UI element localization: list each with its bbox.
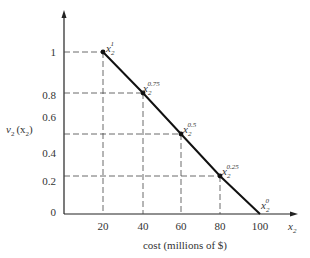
x-tick-label: 100 [252, 220, 269, 232]
y-axis-label: v2(x2) [6, 123, 33, 138]
point-label: x20.5 [182, 121, 197, 138]
data-point [101, 50, 106, 55]
x-tick-label: 60 [176, 220, 188, 232]
x-tick-label: 80 [215, 220, 227, 232]
y-tick-label: 0 [51, 206, 57, 218]
x-tick-label: 20 [98, 220, 110, 232]
x-axis-variable: x2 [287, 220, 297, 235]
point-label: x20.25 [221, 163, 239, 180]
point-label: x20 [260, 197, 270, 214]
y-tick-label: 1 [51, 46, 57, 58]
y-tick-label: 0.4 [42, 147, 56, 159]
y-tick-label: 0.8 [42, 89, 56, 101]
y-axis-arrow-icon [62, 10, 67, 18]
y-tick-label: 0.2 [42, 175, 56, 187]
x-axis-title: cost (millions of $) [143, 239, 227, 252]
x-axis-arrow-icon [290, 212, 298, 217]
chart: x21 x20.75 x20.5 x20.25 x20 1 0.8 0.6 0.… [0, 0, 310, 258]
y-tick-label: 0.6 [42, 111, 56, 123]
x-tick-label: 40 [138, 220, 150, 232]
guide-lines [64, 52, 220, 214]
